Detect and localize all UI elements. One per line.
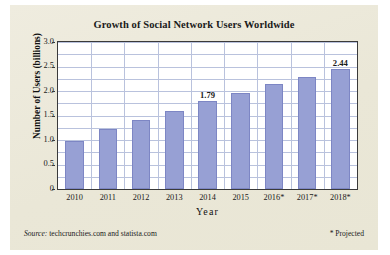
y-tick-label: 2.5 xyxy=(30,61,54,70)
x-tick-label: 2017* xyxy=(291,193,324,202)
source-value: techcrunchies.com and statista.com xyxy=(47,229,156,238)
x-tick-label: 2010 xyxy=(58,193,91,202)
y-axis-ticks: 00.51.01.52.02.53.0 xyxy=(27,41,54,190)
vertical-gridline xyxy=(291,42,292,189)
plot-inner: 1.792.44 xyxy=(58,42,357,189)
vertical-gridline xyxy=(257,42,258,189)
bar-value-label: 1.79 xyxy=(191,90,224,100)
y-tick-label: 1.5 xyxy=(30,110,54,119)
bar-2018-projected xyxy=(331,69,350,189)
vertical-gridline xyxy=(124,42,125,189)
bar-2017-projected xyxy=(298,77,317,189)
horizontal-gridline xyxy=(58,67,357,68)
projected-note: * Projected xyxy=(330,229,364,238)
bar-2013 xyxy=(165,111,184,189)
source-label: Source: xyxy=(24,229,47,238)
y-tick-label: 1.0 xyxy=(30,135,54,144)
x-tick-label: 2012 xyxy=(124,193,157,202)
x-tick-label: 2016* xyxy=(257,193,290,202)
y-tick-mark xyxy=(52,42,55,43)
x-axis-ticks: 2010201120122013201420152016*2017*2018* xyxy=(57,193,358,206)
source-note: Source: techcrunchies.com and statista.c… xyxy=(24,229,157,238)
y-tick-mark xyxy=(52,165,55,166)
x-axis-title: Year xyxy=(57,206,358,217)
x-tick-label: 2014 xyxy=(191,193,224,202)
bar-2011 xyxy=(99,129,118,189)
vertical-gridline xyxy=(158,42,159,189)
y-tick-label: 2.0 xyxy=(30,86,54,95)
y-tick-label: 3.0 xyxy=(30,37,54,46)
y-tick-mark xyxy=(52,67,55,68)
chart-page: Growth of Social Network Users Worldwide… xyxy=(0,0,390,255)
y-tick-mark xyxy=(52,140,55,141)
bar-2012 xyxy=(132,120,151,189)
bar-2010 xyxy=(65,141,84,189)
y-tick-label: 0 xyxy=(30,184,54,193)
x-tick-label: 2018* xyxy=(324,193,357,202)
bar-value-label: 2.44 xyxy=(324,58,357,68)
horizontal-gridline xyxy=(58,42,357,43)
x-tick-label: 2011 xyxy=(91,193,124,202)
x-tick-label: 2013 xyxy=(158,193,191,202)
plot-area: 1.792.44 xyxy=(57,41,358,190)
chart-card: Growth of Social Network Users Worldwide… xyxy=(10,5,378,250)
y-tick-mark xyxy=(52,189,55,190)
y-tick-mark xyxy=(52,91,55,92)
bar-2015 xyxy=(231,93,250,189)
vertical-gridline xyxy=(224,42,225,189)
x-tick-label: 2015 xyxy=(224,193,257,202)
y-tick-mark xyxy=(52,116,55,117)
vertical-gridline xyxy=(191,42,192,189)
horizontal-gridline xyxy=(58,54,357,55)
bar-2014 xyxy=(198,101,217,189)
vertical-gridline xyxy=(91,42,92,189)
chart-title: Growth of Social Network Users Worldwide xyxy=(10,19,378,30)
y-tick-label: 0.5 xyxy=(30,159,54,168)
bar-2016-projected xyxy=(265,84,284,189)
